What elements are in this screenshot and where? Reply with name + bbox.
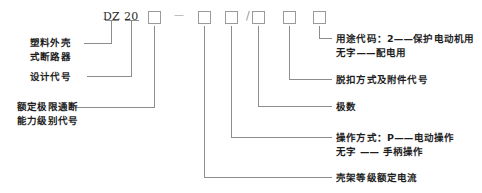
label-plastic-case-breaker-line2: 式断路器 <box>30 50 71 64</box>
code-box-slot3[interactable] <box>225 11 238 24</box>
label-usage-code-line2: 无字——配电用 <box>336 46 476 60</box>
leader-design-code <box>87 21 139 77</box>
leader-usage-code <box>320 26 332 39</box>
code-token-slash: / <box>246 9 250 22</box>
label-operation-mode-line2: 无字 —— 手柄操作 <box>336 145 476 159</box>
code-box-slot1[interactable] <box>148 11 161 24</box>
code-token-dash: — <box>174 9 184 20</box>
label-trip-mode-accessory-code-line1: 脱扣方式及附件代号 <box>336 73 428 86</box>
label-operation-mode-line1: 操作方式：P——电动操作 <box>336 131 476 145</box>
label-pole-count: 极数 <box>336 100 356 113</box>
leader-plastic-case-breaker <box>84 21 119 44</box>
code-token-design: 20 <box>124 10 139 23</box>
code-box-slot4[interactable] <box>252 11 265 24</box>
label-rated-breaking-capacity: 额定极限通断 能力级别代号 <box>17 100 78 128</box>
code-box-slot6[interactable] <box>313 11 326 24</box>
label-pole-count-line1: 极数 <box>336 100 356 113</box>
leader-trip-mode <box>290 26 332 80</box>
code-token-prefix: DZ <box>103 10 120 23</box>
label-rated-breaking-capacity-line1: 额定极限通断 <box>17 100 78 114</box>
label-usage-code-line1: 用途代码：2——保护电动机用 <box>336 32 476 46</box>
label-frame-rated-current-line1: 壳架等级额定电流 <box>336 171 418 184</box>
leader-rated-capacity <box>75 26 155 108</box>
leader-frame-rated-current <box>205 26 332 178</box>
label-design-code: 设计代号 <box>30 70 71 83</box>
label-trip-mode-accessory-code: 脱扣方式及附件代号 <box>336 73 428 86</box>
label-design-code-line1: 设计代号 <box>30 70 71 83</box>
connector-lines <box>0 0 482 193</box>
label-operation-mode: 操作方式：P——电动操作 无字 —— 手柄操作 <box>336 131 476 159</box>
leader-operation-mode <box>232 26 332 138</box>
model-designation-diagram: DZ 20 — / 塑料外壳 式断路器 设计代号 额定极限通断 能力级别代号 用… <box>0 0 482 193</box>
label-rated-breaking-capacity-line2: 能力级别代号 <box>17 114 78 128</box>
leader-pole-count <box>259 26 332 107</box>
label-plastic-case-breaker: 塑料外壳 式断路器 <box>30 36 71 64</box>
code-box-slot5[interactable] <box>283 11 296 24</box>
label-plastic-case-breaker-line1: 塑料外壳 <box>30 36 71 50</box>
code-box-slot2[interactable] <box>198 11 211 24</box>
label-usage-code: 用途代码：2——保护电动机用 无字——配电用 <box>336 32 476 60</box>
label-frame-rated-current: 壳架等级额定电流 <box>336 171 418 184</box>
